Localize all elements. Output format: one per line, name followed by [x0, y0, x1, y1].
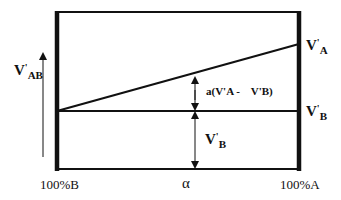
baseline-annotation-main: V — [205, 131, 216, 147]
vb-label: V'B — [306, 104, 327, 119]
diagram-canvas — [0, 0, 341, 200]
va-label-main: V — [306, 37, 317, 53]
va-label-sub: A — [320, 44, 328, 56]
difference-annotation: a(V'A - V'B) — [206, 86, 273, 97]
x-axis-right-label: 100%A — [280, 178, 320, 191]
y-axis-label: V'AB — [14, 63, 43, 78]
x-axis-left-label: 100%B — [40, 178, 79, 191]
vb-label-sub: B — [320, 110, 327, 122]
va-line — [57, 44, 299, 111]
x-axis-center-label: α — [182, 176, 190, 191]
vb-label-main: V — [306, 103, 317, 119]
baseline-annotation-sub: B — [219, 138, 226, 150]
va-label: V'A — [306, 38, 328, 53]
y-axis-label-sub: AB — [28, 69, 43, 81]
baseline-annotation: V'B — [205, 132, 226, 147]
y-axis-label-main: V — [14, 62, 25, 78]
